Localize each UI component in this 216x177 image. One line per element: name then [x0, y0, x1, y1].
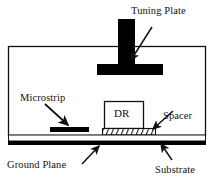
label-substrate: Substrate: [155, 164, 195, 175]
schematic-drawing: [0, 0, 216, 177]
figure-canvas: Tuning Plate Microstrip DR Spacer Ground…: [0, 0, 216, 177]
microstrip-leader: [45, 104, 68, 125]
label-dr: DR: [114, 108, 129, 119]
label-tuning-plate: Tuning Plate: [131, 5, 186, 16]
microstrip-bar: [50, 127, 89, 132]
label-ground-plane: Ground Plane: [7, 159, 66, 170]
ground-plane-leader: [82, 146, 99, 164]
substrate-layer: [9, 135, 206, 141]
tuning-plate-bar: [97, 64, 163, 75]
ground-plane-layer: [8, 141, 206, 145]
spacer-hatch: [103, 129, 156, 136]
label-microstrip: Microstrip: [20, 92, 65, 103]
substrate-leader: [161, 144, 172, 160]
label-spacer: Spacer: [163, 110, 192, 121]
